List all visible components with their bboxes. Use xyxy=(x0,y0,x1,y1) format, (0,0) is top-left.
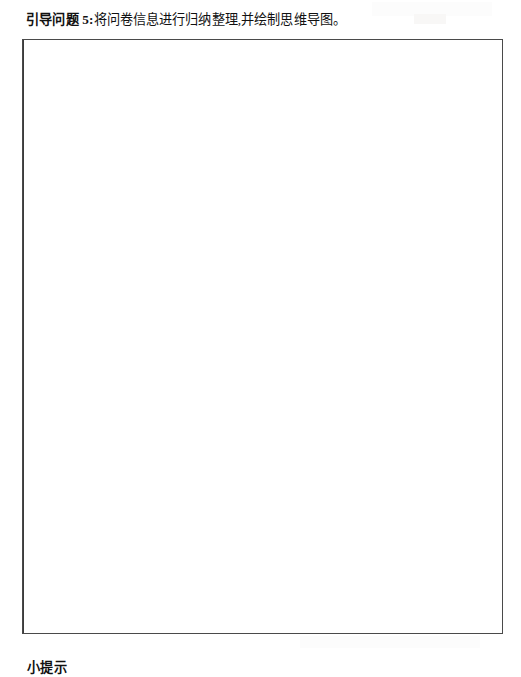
scan-artifact xyxy=(300,636,480,648)
scan-artifact xyxy=(372,2,492,16)
tip-heading: 小提示 xyxy=(27,659,67,677)
scan-artifact xyxy=(414,14,446,24)
question-number-label: 引导问题 5: xyxy=(26,12,94,27)
question-heading: 引导问题 5:将问卷信息进行归纳整理,并绘制思维导图。 xyxy=(26,11,346,29)
answer-area[interactable] xyxy=(22,39,503,634)
question-prompt-text: 将问卷信息进行归纳整理,并绘制思维导图。 xyxy=(94,12,346,27)
